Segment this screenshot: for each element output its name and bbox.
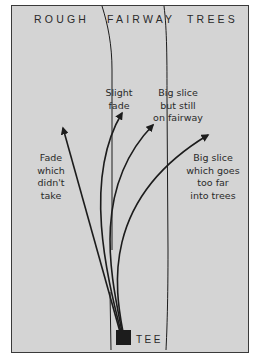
tee-label: TEE — [136, 334, 163, 345]
zone-label-fairway: FAIRWAY — [107, 13, 175, 25]
shot-path-big-slice-fairway — [110, 125, 153, 332]
fairway-right-boundary — [164, 6, 168, 350]
zone-label-rough: ROUGH — [34, 13, 89, 25]
tee-marker — [116, 330, 131, 345]
note-big-slice-trees: Big slice which goes too far into trees — [180, 152, 246, 202]
fairway-left-boundary — [102, 6, 112, 250]
note-slight-fade: Slight fade — [100, 87, 138, 112]
zone-label-trees: TREES — [187, 13, 238, 25]
note-fade-not-taken: Fade which didn't take — [25, 152, 77, 202]
note-big-slice-fairway: Big slice but still on fairway — [148, 87, 208, 125]
